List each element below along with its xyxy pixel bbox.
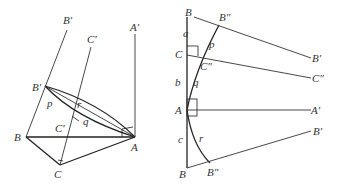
label-p: p xyxy=(208,38,215,50)
label-b-prime-top: B′ xyxy=(63,14,73,26)
label-a-vertex: A xyxy=(174,104,182,116)
label-a-prime-right: A′ xyxy=(310,104,321,116)
right-angle-c xyxy=(187,46,198,56)
label-c-prime-top: C′ xyxy=(87,33,97,45)
line-cc-prime xyxy=(60,47,91,165)
label-b-bottom: B xyxy=(179,168,186,180)
label-q: q xyxy=(83,115,89,127)
label-r: r xyxy=(199,132,204,144)
label-b-prime-right-top: B′ xyxy=(312,52,322,64)
label-b-prime-right-bottom: B′ xyxy=(313,125,323,137)
label-r: r xyxy=(77,98,82,110)
label-c-side: c xyxy=(178,133,183,145)
left-figure: B′ C′ A′ B′ p r q C′ B A C xyxy=(14,14,140,180)
label-c-double-prime-right: C″ xyxy=(312,72,324,84)
label-c-prime-vertex: C′ xyxy=(55,122,65,134)
right-figure: B B″ a p C C″ B′ C″ b q A A′ B′ c r B B″ xyxy=(174,6,324,180)
line-ca xyxy=(60,137,135,165)
line-bc xyxy=(26,137,60,165)
label-b: B xyxy=(14,131,21,143)
label-a-side: a xyxy=(183,27,189,39)
label-b-top: B xyxy=(185,6,192,18)
label-a: A xyxy=(130,141,138,153)
label-c: C xyxy=(54,168,62,180)
label-b-side: b xyxy=(175,76,181,88)
label-c: C xyxy=(175,48,183,60)
label-p: p xyxy=(46,97,53,109)
geometry-diagram: B′ C′ A′ B′ p r q C′ B A C B B″ a p C xyxy=(0,0,338,188)
c-prime-mark xyxy=(72,116,79,121)
label-b-double-prime-top: B″ xyxy=(219,11,231,23)
label-q: q xyxy=(193,76,199,88)
c-mark xyxy=(58,160,63,161)
label-b-prime-vertex: B′ xyxy=(32,81,42,93)
label-b-double-prime-bottom: B″ xyxy=(207,166,219,178)
line-b-b-prime-bottom xyxy=(187,131,311,168)
label-a-prime-top: A′ xyxy=(129,21,140,33)
label-c-double-prime: C″ xyxy=(200,60,212,72)
